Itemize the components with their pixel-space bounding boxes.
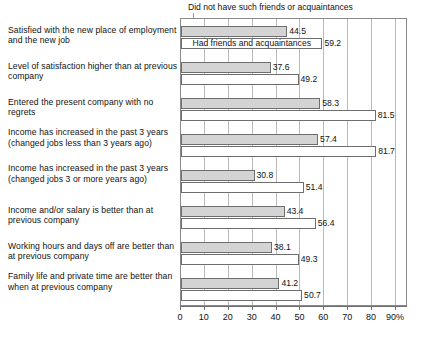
gridline-80 <box>371 19 372 305</box>
bar-value-label: 30.8 <box>257 170 274 181</box>
bar-had-friends-7 <box>181 290 302 301</box>
bar-value-label: 59.2 <box>324 38 341 49</box>
bar-had-friends-1 <box>181 74 299 85</box>
legend-label-had-friends: Had friends and acquaintances <box>181 38 322 49</box>
x-tick-label-80: 80 <box>366 312 376 323</box>
bar-chart: Did not have such friends or acquaintanc… <box>0 0 421 337</box>
gridline-60 <box>323 19 324 305</box>
category-label-2: Entered the present company with no regr… <box>8 97 178 118</box>
category-label-4: Income has increased in the past 3 years… <box>8 163 178 184</box>
gridline-90 <box>395 19 396 305</box>
x-tick-label-30: 30 <box>247 312 257 323</box>
x-tick-label-50: 50 <box>294 312 304 323</box>
x-tick-60 <box>323 306 324 310</box>
x-tick-label-0: 0 <box>177 312 182 323</box>
x-tick-label-20: 20 <box>223 312 233 323</box>
x-tick-50 <box>299 306 300 310</box>
bar-no-friends-3 <box>181 134 318 145</box>
x-tick-30 <box>252 306 253 310</box>
bar-value-label: 81.7 <box>378 146 395 157</box>
x-tick-0 <box>180 306 181 310</box>
category-label-5: Income and/or salary is better than at p… <box>8 205 178 226</box>
category-label-6: Working hours and days off are better th… <box>8 241 178 262</box>
bar-value-label: 37.6 <box>273 62 290 73</box>
gridline-70 <box>347 19 348 305</box>
bar-no-friends-4 <box>181 170 255 181</box>
bar-had-friends-5 <box>181 218 316 229</box>
bar-value-label: 38.1 <box>274 242 291 253</box>
category-label-1: Level of satisfaction higher than at pre… <box>8 61 178 82</box>
bar-value-label: 50.7 <box>304 290 321 301</box>
x-tick-label-70: 70 <box>342 312 352 323</box>
x-axis-line <box>180 306 407 307</box>
bar-had-friends-6 <box>181 254 299 265</box>
x-tick-10 <box>204 306 205 310</box>
x-tick-40 <box>276 306 277 310</box>
x-tick-20 <box>228 306 229 310</box>
x-tick-label-10: 10 <box>199 312 209 323</box>
bar-value-label: 58.3 <box>322 98 339 109</box>
bar-value-label: 41.2 <box>281 278 298 289</box>
legend-label-no-friends: Did not have such friends or acquaintanc… <box>188 2 353 13</box>
bar-value-label: 49.2 <box>301 74 318 85</box>
category-label-0: Satisfied with the new place of employme… <box>8 25 178 46</box>
bar-value-label: 57.4 <box>320 134 337 145</box>
x-tick-90 <box>395 306 396 310</box>
bar-had-friends-3 <box>181 146 376 157</box>
bar-value-label: 56.4 <box>318 218 335 229</box>
bar-value-label: 51.4 <box>306 182 323 193</box>
x-tick-80 <box>371 306 372 310</box>
bar-value-label: 43.4 <box>287 206 304 217</box>
bar-value-label: 49.3 <box>301 254 318 265</box>
bar-value-label: 81.5 <box>378 110 395 121</box>
bar-had-friends-2 <box>181 110 376 121</box>
x-tick-label-40: 40 <box>271 312 281 323</box>
category-label-3: Income has increased in the past 3 years… <box>8 127 178 148</box>
bar-value-label: 44.5 <box>289 26 306 37</box>
bar-no-friends-5 <box>181 206 285 217</box>
x-tick-label-90: 90% <box>386 312 404 323</box>
bar-no-friends-1 <box>181 62 271 73</box>
bar-no-friends-2 <box>181 98 320 109</box>
bar-no-friends-0 <box>181 26 287 37</box>
bar-no-friends-7 <box>181 278 279 289</box>
plot-area: 44.559.237.649.258.381.557.481.730.851.4… <box>180 18 407 306</box>
x-tick-label-60: 60 <box>318 312 328 323</box>
bar-had-friends-4 <box>181 182 304 193</box>
bar-no-friends-6 <box>181 242 272 253</box>
category-label-7: Family life and private time are better … <box>8 271 178 292</box>
x-tick-70 <box>347 306 348 310</box>
